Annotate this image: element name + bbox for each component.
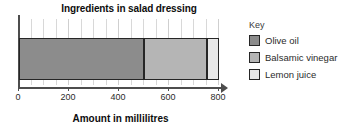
- legend-item: Balsamic vinegar: [249, 49, 361, 66]
- legend-item: Olive oil: [249, 32, 361, 49]
- legend-swatch-icon: [249, 52, 260, 63]
- legend-title: Key: [249, 20, 361, 30]
- legend-item: Lemon juice: [249, 66, 361, 83]
- bar-segment-lemon-juice: [207, 38, 220, 80]
- x-tick: [118, 87, 119, 91]
- bar-chart: Ingredients in salad dressing 0200400600…: [0, 0, 363, 135]
- x-tick-label: 0: [15, 92, 20, 102]
- legend-swatch-icon: [249, 69, 260, 80]
- chart-title: Ingredients in salad dressing: [18, 3, 240, 14]
- x-tick-label: 800: [210, 92, 225, 102]
- legend-item-label: Olive oil: [265, 35, 299, 46]
- x-tick: [168, 87, 169, 91]
- legend: Key Olive oilBalsamic vinegarLemon juice: [249, 20, 361, 83]
- x-tick: [18, 87, 19, 91]
- x-axis-label: Amount in millilitres: [18, 113, 223, 124]
- legend-item-label: Balsamic vinegar: [265, 52, 337, 63]
- x-tick-label: 200: [60, 92, 75, 102]
- bar-segment-olive-oil: [19, 38, 144, 80]
- x-tick: [218, 87, 219, 91]
- x-tick-label: 400: [110, 92, 125, 102]
- x-tick-label: 600: [160, 92, 175, 102]
- legend-swatch-icon: [249, 35, 260, 46]
- x-axis-line: [18, 87, 223, 89]
- x-tick: [68, 87, 69, 91]
- bar-segment-balsamic-vinegar: [144, 38, 207, 80]
- legend-item-label: Lemon juice: [265, 69, 316, 80]
- legend-items: Olive oilBalsamic vinegarLemon juice: [249, 32, 361, 83]
